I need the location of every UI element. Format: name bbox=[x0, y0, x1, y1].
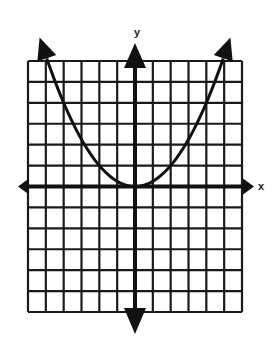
x-axis-right-arrow-icon bbox=[243, 179, 254, 195]
parabola-graph: x y bbox=[0, 0, 279, 343]
y-axis-label: y bbox=[134, 26, 141, 38]
x-axis-left-arrow-icon bbox=[18, 179, 29, 195]
curve-right-arrow-icon bbox=[214, 38, 233, 62]
y-axis-down-arrow-icon bbox=[124, 308, 146, 334]
x-axis-label: x bbox=[258, 180, 265, 192]
curve-left-arrow-icon bbox=[37, 38, 56, 62]
y-axis-up-arrow-icon bbox=[124, 43, 146, 68]
